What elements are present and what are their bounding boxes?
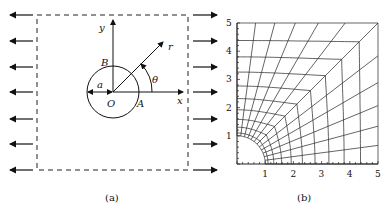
svg-text:2: 2: [290, 169, 296, 179]
svg-text:O: O: [107, 98, 115, 109]
panel-b: 1122334455: [226, 18, 381, 179]
svg-text:θ: θ: [152, 74, 158, 85]
svg-text:r: r: [168, 41, 174, 52]
left-traction-arrows: [10, 15, 33, 170]
svg-text:y: y: [98, 22, 105, 33]
svg-text:5: 5: [226, 18, 232, 28]
svg-text:a: a: [97, 79, 103, 90]
theta-arc: [141, 64, 152, 92]
svg-text:4: 4: [347, 169, 353, 179]
svg-text:1: 1: [226, 131, 232, 141]
caption-b: (b): [297, 192, 311, 203]
svg-text:x: x: [177, 95, 183, 106]
figure: y x r θ a O A B 1122334455: [0, 0, 389, 213]
svg-text:3: 3: [319, 169, 325, 179]
svg-text:B: B: [100, 57, 108, 68]
svg-text:4: 4: [226, 46, 232, 56]
svg-text:3: 3: [226, 74, 232, 84]
caption-a: (a): [105, 192, 119, 203]
panel-a: y x r θ a O A B: [10, 15, 217, 170]
svg-text:5: 5: [375, 169, 381, 179]
svg-text:1: 1: [262, 169, 268, 179]
svg-text:2: 2: [226, 103, 232, 113]
svg-text:A: A: [136, 98, 144, 109]
right-traction-arrows: [193, 15, 217, 170]
